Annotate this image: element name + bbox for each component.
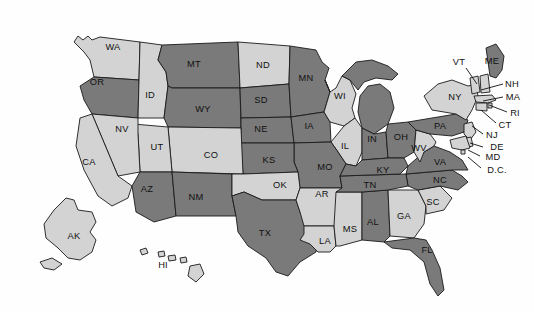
state-label-MA: MA: [506, 92, 520, 102]
state-label-AR: AR: [315, 189, 328, 199]
state-label-NM: NM: [189, 192, 204, 202]
state-label-MS: MS: [343, 224, 357, 234]
state-label-IN: IN: [367, 134, 377, 144]
state-shape-AZ[interactable]: [132, 172, 176, 222]
state-label-NV: NV: [115, 124, 128, 134]
state-label-TN: TN: [364, 180, 377, 190]
state-label-WY: WY: [195, 104, 210, 114]
state-label-AZ: AZ: [141, 184, 153, 194]
leader-line-RI: [489, 105, 507, 112]
state-shape-MD[interactable]: [450, 136, 470, 150]
state-shape-VT[interactable]: [470, 76, 480, 94]
state-label-SC: SC: [426, 197, 439, 207]
state-shape-MS[interactable]: [334, 192, 362, 246]
state-shape-DC[interactable]: [461, 150, 465, 154]
state-label-GA: GA: [397, 211, 411, 221]
state-label-PA: PA: [434, 121, 446, 131]
state-label-NC: NC: [433, 175, 447, 185]
state-label-ID: ID: [145, 90, 155, 100]
state-label-SD: SD: [254, 95, 267, 105]
state-label-HI: HI: [158, 260, 168, 270]
leader-line-MD: [468, 150, 480, 156]
state-shape-NM[interactable]: [172, 172, 236, 216]
state-label-WV: WV: [411, 143, 426, 153]
state-label-CT: CT: [499, 120, 512, 130]
state-label-MO: MO: [317, 162, 332, 172]
state-label-OH: OH: [394, 132, 408, 142]
state-shape-WI[interactable]: [324, 76, 356, 126]
state-label-WI: WI: [334, 91, 346, 101]
state-label-OK: OK: [273, 180, 287, 190]
state-label-VT: VT: [453, 57, 465, 67]
state-label-NE: NE: [254, 124, 267, 134]
state-label-KY: KY: [377, 165, 390, 175]
state-label-NY: NY: [448, 92, 461, 102]
state-label-CA: CA: [82, 157, 95, 167]
state-label-MN: MN: [299, 73, 314, 83]
state-label-ME: ME: [485, 56, 499, 66]
state-label-MT: MT: [187, 59, 201, 69]
state-label-TX: TX: [259, 228, 271, 238]
state-label-AK: AK: [68, 231, 81, 241]
state-label-UT: UT: [151, 142, 164, 152]
state-label-RI: RI: [510, 108, 520, 118]
state-shape-CT[interactable]: [476, 103, 487, 111]
leader-line-CT: [481, 110, 496, 123]
leader-line-D.C.: [468, 157, 481, 168]
state-label-VA: VA: [434, 157, 446, 167]
state-label-NH: NH: [505, 79, 519, 89]
state-label-DE: DE: [490, 142, 503, 152]
state-label-WA: WA: [105, 42, 120, 52]
us-choropleth-map: WAORIDMTWYNDSDNEMNIAWIILINOHMOKSCOUTNVCA…: [0, 0, 534, 312]
state-label-OR: OR: [90, 77, 104, 87]
state-label-D.C.: D.C.: [487, 165, 506, 175]
state-label-IA: IA: [304, 121, 313, 131]
state-label-IL: IL: [341, 141, 349, 151]
state-label-FL: FL: [421, 245, 432, 255]
state-label-CO: CO: [204, 150, 218, 160]
state-shape-FL[interactable]: [384, 238, 444, 296]
state-label-MD: MD: [486, 152, 501, 162]
state-label-NJ: NJ: [486, 130, 498, 140]
state-label-AL: AL: [367, 217, 379, 227]
state-label-KS: KS: [263, 155, 276, 165]
state-label-ND: ND: [256, 60, 270, 70]
state-shape-AL[interactable]: [362, 190, 390, 242]
state-label-LA: LA: [319, 236, 331, 246]
state-shape-HI[interactable]: [140, 248, 204, 282]
